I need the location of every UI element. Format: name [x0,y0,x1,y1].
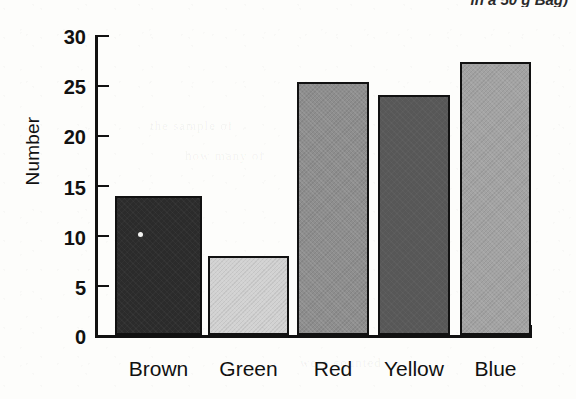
brown-bar-speck [138,232,143,237]
y-axis-tick-25 [98,85,109,87]
y-tick-label-10: 10 [52,228,86,248]
bar-chart: Number 30 25 20 15 10 5 0 Brown Green Re… [0,0,576,399]
bar-brown [115,196,202,335]
y-tick-label-20: 20 [52,127,86,147]
y-tick-label-5: 5 [52,278,86,298]
x-axis-line [95,335,532,338]
x-tick-label-green: Green [208,357,289,381]
y-axis-tick-15 [98,185,109,187]
x-tick-label-blue: Blue [460,357,531,381]
y-tick-label-15: 15 [52,178,86,198]
y-axis-tick-30 [98,35,109,37]
y-axis-tick-labels: 30 25 20 15 10 5 0 [20,0,86,399]
bar-yellow [378,95,450,335]
y-tick-label-30: 30 [52,27,86,47]
bar-blue [460,62,531,335]
y-tick-label-25: 25 [52,77,86,97]
bar-red [297,82,369,335]
x-tick-label-brown: Brown [115,357,202,381]
y-tick-label-0: 0 [52,327,86,347]
x-tick-label-yellow: Yellow [372,357,456,381]
y-axis-tick-20 [98,135,109,137]
y-axis-tick-5 [98,285,109,287]
bar-green [208,256,289,335]
x-tick-label-red: Red [297,357,369,381]
y-axis-tick-10 [98,235,109,237]
